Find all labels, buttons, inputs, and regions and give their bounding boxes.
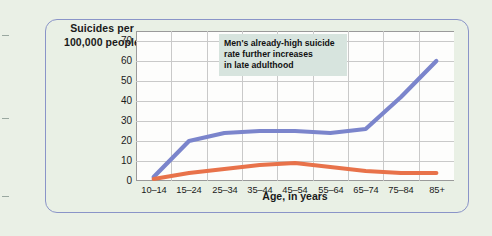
page-edge-tick (2, 196, 9, 197)
y-tick-label: 20 (102, 135, 132, 146)
y-tick-label: 10 (102, 155, 132, 166)
y-tick-label: 30 (102, 115, 132, 126)
y-tick-label: 70 (102, 35, 132, 46)
page-edge-tick (2, 118, 9, 119)
annotation-line-1: Men's already-high suicide (224, 38, 342, 49)
figure-root: Suicides per 100,000 people 70 60 50 40 … (0, 0, 492, 236)
annotation-line-2: rate further increases (224, 49, 342, 60)
chart-annotation: Men's already-high suicide rate further … (219, 34, 347, 76)
y-tick-label: 0 (102, 175, 132, 186)
x-axis-title: Age, in years (136, 190, 454, 202)
page-edge-tick (2, 35, 9, 36)
line-males (154, 61, 437, 177)
y-tick-label: 60 (102, 55, 132, 66)
y-tick-label: 40 (102, 95, 132, 106)
line-females (154, 163, 437, 179)
annotation-line-3: in late adulthood (224, 60, 342, 71)
y-tick-label: 50 (102, 75, 132, 86)
